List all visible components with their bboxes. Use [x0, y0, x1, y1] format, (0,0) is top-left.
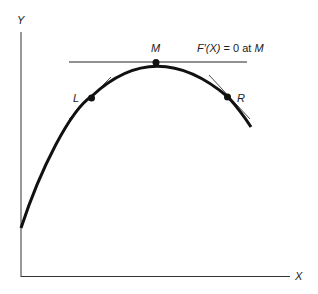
point-R [224, 94, 231, 101]
label-M: M [151, 42, 161, 54]
annotation-derivative: F′(X) = 0 at M [197, 42, 264, 54]
label-R: R [237, 92, 245, 104]
annotation-mid: = 0 at [220, 42, 254, 54]
y-axis-label: Y [17, 14, 25, 26]
label-L: L [73, 92, 79, 104]
point-L [88, 95, 95, 102]
function-curve [21, 66, 251, 228]
diagram: Y X M L R F′(X) = 0 at M [0, 0, 318, 294]
x-axis-label: X [294, 270, 303, 282]
point-M [153, 59, 160, 66]
